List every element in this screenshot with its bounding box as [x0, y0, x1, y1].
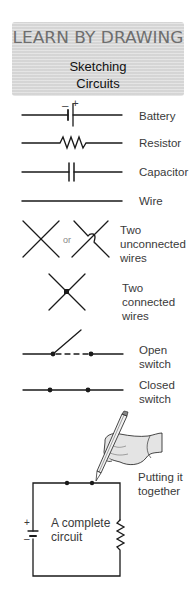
label-line: Open [139, 343, 171, 357]
unconnected-wires-label: Two unconnected wires [120, 223, 186, 265]
putting-together-label: Putting it together [138, 470, 183, 498]
wire-label: Wire [139, 194, 163, 208]
label-line: Putting it [138, 470, 183, 484]
label-line: switch [139, 357, 171, 371]
resistor-symbol-icon [22, 137, 122, 148]
circuit-dot-icon [90, 481, 94, 485]
label-line: circuit [51, 530, 110, 544]
label-line: switch [139, 392, 175, 406]
circuit-dot-icon [65, 481, 69, 485]
complete-circuit-label: A complete circuit [51, 516, 110, 544]
label-line: wires [120, 251, 186, 265]
connected-wires-label: Two connected wires [122, 281, 175, 323]
label-line: Two [120, 223, 186, 237]
battery-label: Battery [139, 109, 175, 123]
open-switch-label: Open switch [139, 343, 171, 371]
switch-terminal-dot-icon [48, 388, 53, 393]
unconnected-crossing-icon [23, 221, 59, 257]
capacitor-label: Capacitor [139, 165, 188, 179]
battery-minus-mark: – [62, 98, 68, 112]
open-switch-symbol-icon [23, 330, 123, 354]
capacitor-symbol-icon [22, 163, 122, 181]
label-line: together [138, 484, 183, 498]
label-line: unconnected [120, 237, 186, 251]
closed-switch-label: Closed switch [139, 378, 175, 406]
plus-mark: + [24, 518, 30, 528]
switch-terminal-dot-icon [86, 388, 91, 393]
junction-dot-icon [64, 289, 69, 294]
circuit-battery-marks: + – [24, 518, 30, 544]
or-text: or [63, 233, 71, 247]
label-line: A complete [51, 516, 110, 530]
resistor-label: Resistor [139, 136, 181, 150]
label-line: Two [122, 281, 175, 295]
minus-mark: – [24, 534, 30, 544]
label-line: Closed [139, 378, 175, 392]
label-line: connected [122, 295, 175, 309]
switch-terminal-dot-icon [51, 352, 56, 357]
unconnected-hop-crossing-icon [72, 221, 109, 257]
label-line: wires [122, 309, 175, 323]
switch-terminal-dot-icon [89, 352, 94, 357]
battery-plus-mark: + [72, 96, 79, 110]
